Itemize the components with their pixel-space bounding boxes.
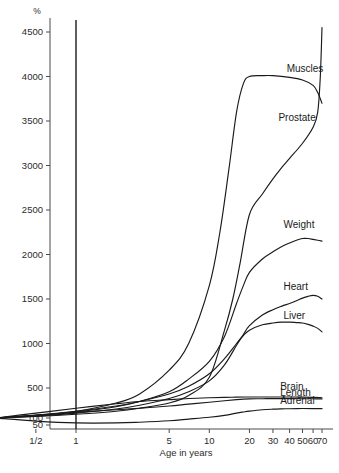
curve-muscles [0, 75, 322, 418]
y-tick-label: 500 [27, 382, 43, 393]
series-label-heart: Heart [283, 281, 308, 292]
series-label-prostate: Prostate [278, 112, 316, 123]
x-tick-label: 30 [268, 435, 279, 446]
y-axis-unit-label: % [33, 6, 41, 16]
curve-prostate [0, 28, 322, 418]
x-tick-label: 20 [244, 435, 255, 446]
y-tick-label: 4500 [22, 26, 43, 37]
series-label-muscles: Muscles [287, 63, 324, 74]
x-tick-label: 10 [204, 435, 215, 446]
series-label-weight: Weight [283, 219, 314, 230]
x-tick-label: 1 [73, 435, 78, 446]
y-tick-label: 3500 [22, 115, 43, 126]
y-tick-label: 1500 [22, 293, 43, 304]
curve-liver [0, 322, 322, 418]
growth-curves-chart: 5010050010001500200025003000350040004500… [0, 0, 339, 473]
x-axis-title: Age in years [160, 447, 213, 458]
series-label-liver: Liver [283, 310, 305, 321]
x-tick-label: 5 [167, 435, 172, 446]
x-tick-label: 40 [284, 435, 295, 446]
series-label-adrenal: Adrenal [280, 395, 314, 406]
y-tick-label: 2500 [22, 204, 43, 215]
y-axis-ticks: 5010050010001500200025003000350040004500 [22, 26, 50, 430]
x-axis-ticks: 1/21510203040506070 [29, 429, 327, 446]
x-tick-label: 50 [297, 435, 308, 446]
curve-series-group [0, 28, 322, 424]
curve-weight [0, 238, 322, 418]
y-tick-label: 4000 [22, 71, 43, 82]
y-tick-label: 1000 [22, 338, 43, 349]
x-tick-label: 70 [317, 435, 328, 446]
x-tick-label: 1/2 [29, 435, 42, 446]
y-tick-label: 2000 [22, 249, 43, 260]
series-label-group: MusclesProstateWeightHeartLiverBrainLeng… [278, 63, 323, 406]
y-tick-label: 3000 [22, 160, 43, 171]
growth-chart-container: 5010050010001500200025003000350040004500… [0, 0, 339, 473]
